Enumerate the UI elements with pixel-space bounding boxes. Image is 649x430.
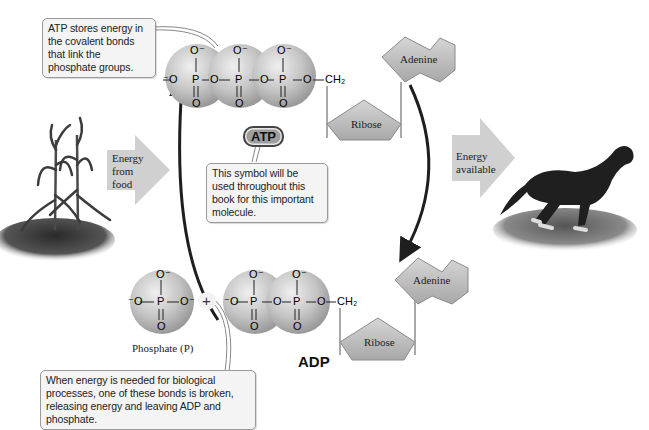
- atp-o-bridge3: O: [303, 73, 312, 85]
- atp-ribose-label: Ribose: [351, 118, 382, 130]
- adp-p2: P: [293, 295, 300, 307]
- callout-hydrolysis: When energy is needed for biological pro…: [40, 370, 256, 430]
- adp-o-left: ⁻O: [224, 295, 239, 308]
- callout-atp-symbol: This symbol will be used throughout this…: [206, 163, 328, 223]
- atp-o3-bottom: O: [279, 97, 288, 109]
- callout-atp-bonds: ATP stores energy in the covalent bonds …: [42, 18, 156, 78]
- plus-sign: +: [202, 292, 211, 309]
- adp-o1-top: O⁻: [249, 268, 264, 281]
- atp-o2-bottom: O: [235, 97, 244, 109]
- energy-out-label: Energy available: [456, 150, 506, 176]
- atp-ch2: CH₂: [325, 73, 345, 85]
- atp-p3: P: [279, 73, 286, 85]
- adp-o-bridge2: O: [317, 295, 326, 307]
- atp-o1-bottom: O: [192, 97, 201, 109]
- adp-ch2: CH₂: [337, 295, 357, 307]
- atp-o-bridge2: O: [260, 73, 269, 85]
- atp-o1-top: O⁻: [190, 44, 205, 57]
- pi-o-top: O⁻: [156, 268, 171, 281]
- adp-o1-bottom: O: [250, 320, 259, 332]
- pi-o-bottom: O: [157, 320, 166, 332]
- atp-o-left: ⁻O: [163, 73, 178, 86]
- atp-adenine-label: Adenine: [400, 53, 437, 65]
- pi-o-left: ⁻O: [128, 295, 143, 308]
- adp-o2-top: O⁻: [292, 268, 307, 281]
- atp-p2: P: [235, 73, 242, 85]
- phosphate-caption: Phosphate (P): [132, 342, 193, 354]
- adp-adenine-label: Adenine: [413, 274, 450, 286]
- adp-ribose-label: Ribose: [364, 336, 395, 348]
- atp-badge: ATP: [243, 126, 284, 147]
- pi-p: P: [157, 295, 164, 307]
- adp-p1: P: [250, 295, 257, 307]
- pi-o-right: O⁻: [180, 295, 195, 308]
- atp-o-bridge1: O: [210, 73, 219, 85]
- adp-o-bridge1: O: [273, 295, 282, 307]
- atp-o2-top: O⁻: [233, 44, 248, 57]
- atp-o3-top: O⁻: [277, 44, 292, 57]
- adp-label: ADP: [298, 353, 330, 370]
- energy-in-label: Energy from food: [112, 152, 152, 191]
- atp-p1: P: [192, 73, 199, 85]
- adp-o2-bottom: O: [293, 320, 302, 332]
